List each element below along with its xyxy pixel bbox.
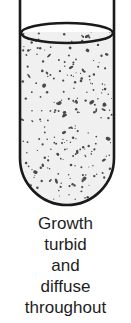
particle	[93, 60, 94, 61]
particle	[70, 178, 71, 179]
particle	[86, 92, 87, 93]
particle	[62, 80, 64, 82]
particle	[72, 63, 74, 65]
particle	[104, 199, 105, 200]
particle	[74, 165, 75, 166]
particle	[31, 91, 33, 93]
particle	[58, 110, 60, 112]
particle	[81, 191, 83, 193]
particle	[68, 185, 70, 187]
particle	[82, 146, 84, 148]
particle	[71, 30, 73, 32]
particle	[49, 74, 51, 76]
particle	[44, 157, 46, 159]
particle	[101, 205, 102, 206]
caption-line: Growth	[0, 213, 131, 234]
particle	[77, 98, 78, 99]
particle	[23, 46, 24, 47]
particle	[31, 169, 32, 170]
particle	[94, 104, 96, 106]
particle	[50, 149, 52, 151]
particle	[86, 204, 88, 206]
particle	[90, 83, 91, 84]
particle	[87, 196, 89, 198]
particle	[79, 112, 80, 113]
particle	[58, 190, 60, 192]
particle	[99, 62, 100, 63]
particle	[35, 82, 37, 84]
particle	[92, 165, 93, 166]
particle	[37, 47, 39, 49]
particle	[54, 111, 56, 113]
particle	[103, 190, 105, 192]
particle	[41, 180, 43, 182]
particle	[73, 184, 75, 186]
particle	[88, 37, 90, 39]
particle	[75, 153, 77, 155]
particle	[100, 117, 102, 119]
caption-line: diffuse	[0, 276, 131, 297]
particle	[41, 70, 44, 73]
particle	[47, 76, 48, 77]
particle	[57, 173, 59, 175]
particle	[63, 159, 64, 160]
particle	[61, 183, 62, 184]
particle	[61, 100, 62, 101]
particle	[109, 168, 111, 170]
particle	[71, 127, 73, 129]
particle	[59, 195, 60, 196]
particle	[108, 195, 110, 197]
particle	[28, 192, 32, 196]
test-tube-diagram	[0, 0, 131, 210]
particle	[59, 70, 61, 72]
particle	[23, 140, 25, 142]
particle	[85, 156, 87, 158]
particle	[41, 110, 43, 112]
particle	[95, 136, 97, 138]
particle	[39, 47, 41, 49]
particle	[47, 167, 48, 168]
particle	[47, 120, 49, 122]
caption-line: and	[0, 255, 131, 276]
particle	[84, 148, 85, 149]
particle	[42, 143, 44, 145]
particle	[44, 126, 46, 128]
particle	[54, 109, 56, 111]
particle	[96, 174, 97, 175]
particle	[37, 150, 38, 151]
particle	[53, 77, 55, 79]
particle	[30, 49, 31, 50]
particle	[83, 28, 85, 30]
particle	[107, 117, 109, 119]
particle	[75, 30, 77, 32]
particle	[50, 110, 52, 112]
particle	[31, 41, 33, 43]
particle	[75, 125, 76, 126]
particle	[109, 110, 110, 111]
particle	[39, 119, 41, 121]
particle	[70, 27, 71, 28]
particle	[60, 158, 62, 160]
particle	[53, 199, 54, 200]
particle	[75, 108, 77, 110]
particle	[85, 174, 87, 176]
particle	[93, 148, 95, 150]
particle	[40, 167, 42, 169]
particle	[50, 179, 52, 181]
particle	[97, 44, 99, 46]
particle	[111, 98, 112, 99]
particle	[26, 54, 28, 56]
particle	[63, 91, 65, 93]
particle	[104, 67, 106, 69]
particle	[27, 141, 29, 143]
broth-fill	[21, 32, 113, 204]
particle	[76, 72, 77, 73]
particle	[60, 186, 62, 188]
caption-line: turbid	[0, 234, 131, 255]
particle	[58, 59, 60, 61]
particle	[89, 185, 90, 186]
particle	[93, 175, 95, 177]
particle	[31, 110, 33, 112]
particle	[56, 103, 58, 105]
particle	[77, 130, 79, 132]
